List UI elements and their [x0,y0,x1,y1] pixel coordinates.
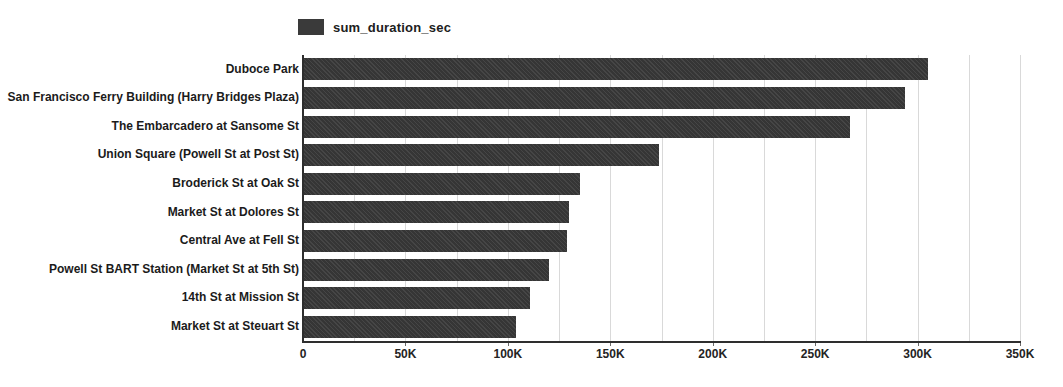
legend-label: sum_duration_sec [333,20,451,35]
x-tick-label: 50K [394,347,416,361]
x-tick-label: 150K [596,347,625,361]
bar [303,144,659,166]
x-axis-line [302,341,1021,343]
category-label: 14th St at Mission St [0,284,299,313]
category-label: The Embarcadero at Sansome St [0,112,299,141]
x-tick-mark [1020,343,1021,346]
gridline [969,55,970,341]
bar [303,201,569,223]
x-tick-label: 200K [698,347,727,361]
x-tick-mark [610,343,611,346]
bar [303,87,905,109]
gridline [918,55,919,341]
category-label: San Francisco Ferry Building (Harry Brid… [0,84,299,113]
y-axis-line [302,55,304,343]
category-label: Market St at Dolores St [0,198,299,227]
x-tick-label: 0 [300,347,307,361]
x-axis-ticks: 050K100K150K200K250K300K350K [303,347,1023,363]
x-tick-label: 300K [903,347,932,361]
bar [303,173,580,195]
x-tick-label: 250K [801,347,830,361]
bar [303,58,928,80]
plot-area [303,55,1020,341]
bar [303,316,516,338]
category-label: Powell St BART Station (Market St at 5th… [0,255,299,284]
category-label: Central Ave at Fell St [0,227,299,256]
category-label: Broderick St at Oak St [0,169,299,198]
bar [303,116,850,138]
bar [303,230,567,252]
y-axis-labels: Duboce ParkSan Francisco Ferry Building … [0,55,299,341]
x-tick-label: 100K [494,347,523,361]
x-tick-mark [508,343,509,346]
category-label: Market St at Steuart St [0,312,299,341]
legend-color-swatch [298,19,324,35]
category-label: Duboce Park [0,55,299,84]
x-tick-mark [918,343,919,346]
bar-chart: sum_duration_sec Duboce ParkSan Francisc… [0,0,1063,387]
category-label: Union Square (Powell St at Post St) [0,141,299,170]
bar [303,259,549,281]
bar [303,287,530,309]
x-tick-mark [815,343,816,346]
x-tick-label: 350K [1006,347,1035,361]
gridline [1020,55,1021,341]
x-tick-mark [405,343,406,346]
legend: sum_duration_sec [298,19,451,35]
x-tick-mark [713,343,714,346]
